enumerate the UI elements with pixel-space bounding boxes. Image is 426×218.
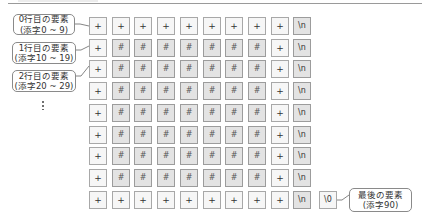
callout-row2: 2行目の要素 (添字20 ~ 29) (12, 70, 76, 92)
callout-row0-line1: 0行目の要素 (14, 14, 74, 25)
callout-row1-line1: 1行目の要素 (13, 43, 75, 54)
callout-last-line2: (添字90) (350, 200, 411, 211)
leader-row0 (75, 24, 89, 26)
callout-row0: 0行目の要素 (添字0 ~ 9) (13, 14, 75, 35)
vertical-ellipsis (42, 100, 44, 112)
leader-row1 (76, 46, 89, 50)
leader-last (337, 195, 349, 200)
callout-last-line1: 最後の要素 (350, 190, 411, 201)
callout-row1-line2: (添字10 ~ 19) (13, 53, 75, 64)
callout-row0-line2: (添字0 ~ 9) (14, 25, 74, 36)
callout-row2-line1: 2行目の要素 (13, 71, 75, 82)
callout-row2-line2: (添字20 ~ 29) (13, 81, 75, 92)
callout-row1: 1行目の要素 (添字10 ~ 19) (12, 42, 76, 64)
callout-last-element: 最後の要素 (添字90) (349, 188, 412, 212)
leader-row2 (76, 66, 89, 76)
